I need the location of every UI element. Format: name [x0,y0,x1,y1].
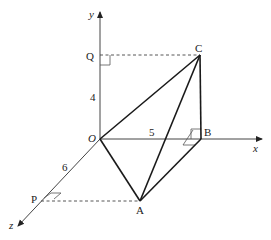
point-label-b: B [204,126,211,138]
point-label-c: C [195,42,202,54]
coordinate-diagram: y x z O Q C B A P 4 5 6 [0,0,271,240]
edge-o-a [100,139,140,201]
z-axis-label: z [8,219,14,231]
z-axis [18,139,100,226]
right-angle-mark-p [44,193,61,199]
dimension-label-ob: 5 [149,126,155,138]
right-angle-mark-b-ground [183,130,195,145]
point-label-q: Q [86,50,94,62]
dimension-label-op: 6 [62,161,68,173]
right-angle-mark-q [100,55,110,65]
x-axis-label: x [252,142,258,154]
point-label-p: P [31,193,37,205]
edge-c-b [200,55,201,139]
edge-a-b [140,139,201,201]
origin-label: O [88,132,96,144]
point-label-a: A [136,204,144,216]
y-axis-label: y [88,8,94,20]
diagram-canvas: y x z O Q C B A P 4 5 6 [0,0,271,240]
dimension-label-oq: 4 [90,91,96,103]
